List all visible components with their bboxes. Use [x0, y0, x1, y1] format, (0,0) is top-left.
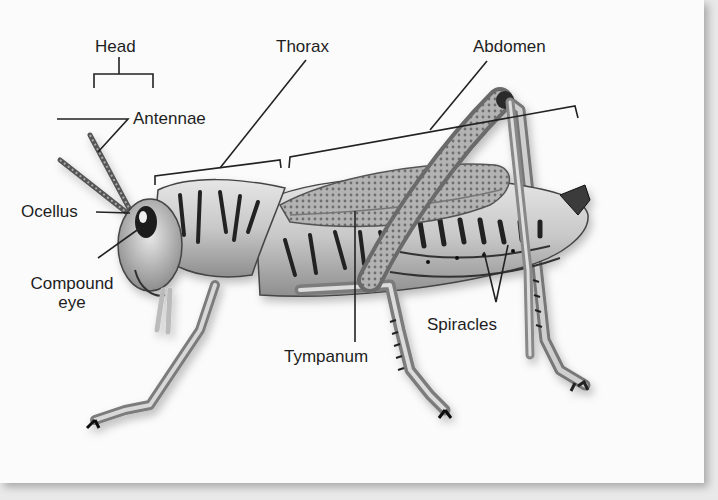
compound-eye: [135, 206, 157, 238]
head-bracket: [94, 57, 153, 88]
label-compound-eye-line2: eye: [21, 293, 123, 312]
label-tympanum: Tympanum: [284, 347, 368, 366]
label-compound-eye: Compound eye: [21, 274, 123, 312]
grasshopper-body: [60, 91, 590, 428]
label-thorax: Thorax: [276, 37, 329, 56]
thorax-pointer: [220, 60, 306, 168]
grasshopper-illustration: [0, 0, 718, 500]
label-antennae: Antennae: [133, 109, 206, 128]
label-spiracles: Spiracles: [427, 315, 497, 334]
label-ocellus: Ocellus: [21, 202, 78, 221]
label-head: Head: [95, 37, 136, 56]
label-abdomen: Abdomen: [473, 37, 546, 56]
ocellus-pointer: [96, 212, 130, 213]
label-compound-eye-line1: Compound: [21, 274, 123, 293]
